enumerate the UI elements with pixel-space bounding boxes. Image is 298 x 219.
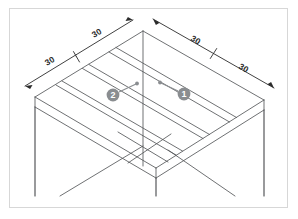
callout-balloon-2-label: 2: [110, 90, 115, 100]
callout-balloon-1-label: 1: [181, 89, 186, 99]
drawing-canvas: 30 30 30 30 2 1: [0, 0, 298, 219]
dim-line-left: [25, 20, 133, 86]
dim-label-top-right-outer: 30: [237, 61, 251, 75]
dimension-group: [25, 17, 274, 89]
dim-label-top-left-inner: 30: [90, 26, 104, 40]
isometric-drawing-svg: 30 30 30 30 2 1: [0, 0, 298, 219]
grid-line-a3: [116, 48, 237, 118]
callout-leader-1: [161, 83, 178, 91]
beam-lower-left: [60, 146, 143, 196]
slab-underside-left: [35, 107, 156, 178]
dim-tick-right-mid: [210, 49, 216, 59]
callout-leader-dot-1: [158, 81, 162, 85]
dim-label-top-right-inner: 30: [189, 33, 203, 47]
beam-lower-right: [168, 150, 235, 196]
slab-grid-group: [35, 31, 264, 196]
callout-leader-dot-2: [135, 82, 139, 86]
dim-label-top-left-outer: 30: [43, 54, 57, 68]
